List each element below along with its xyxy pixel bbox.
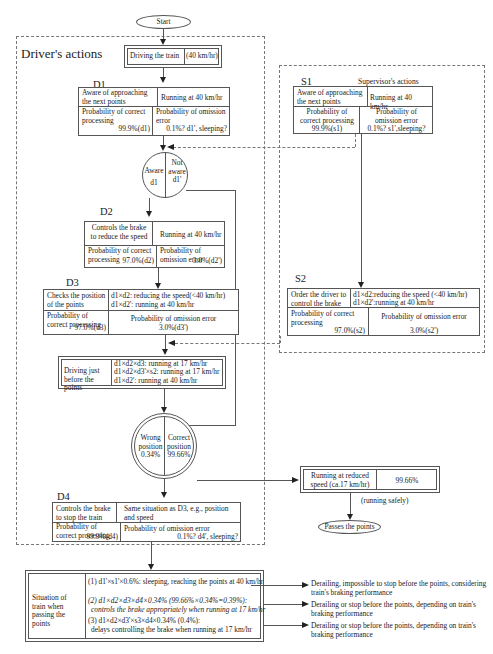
outcome-3: Derailing or stop before the points, dep…: [311, 622, 491, 639]
s2-box: Order the driver to control the brake d1…: [287, 288, 480, 336]
s1-correct-value: 99.9%(s1): [294, 124, 360, 135]
passes-points-label: Passes the points: [324, 522, 374, 531]
driving-before-label: Driving just before the points: [62, 367, 112, 393]
d1-correct-value: 99.9%(d1): [79, 124, 153, 135]
d1-omission-value: 0.1%? d1', sleeping?: [153, 124, 230, 135]
outcome-2: Derailing or stop before the points, dep…: [311, 601, 491, 618]
d4-action: Controls the brake to stop the train: [53, 504, 117, 523]
situation-box: Situation of train when passing the poin…: [25, 570, 264, 642]
situation-item-2-detail: controls the brake appropriately when ru…: [89, 606, 269, 615]
passes-points-node: Passes the points: [318, 520, 381, 534]
situation-item-3-detail: delays controlling the brake when runnin…: [89, 626, 269, 635]
d4-correct-value: 99.9%(d4): [53, 532, 121, 543]
s1-action: Aware of approaching the next points: [294, 88, 368, 107]
driving-train-label: Driving the train: [128, 52, 184, 61]
outcome-1: Derailing, impossible to stop before the…: [311, 580, 491, 597]
reduced-speed-value: 99.66%: [377, 476, 437, 487]
correct-position-label: Correct position 99.66%: [165, 434, 193, 460]
reduced-speed-label: Running at reduced speed (ca.17 km/hr): [304, 471, 376, 490]
start-node: Start: [136, 15, 191, 29]
d3-correct-value: 97.0%(d3): [44, 323, 109, 334]
d4-id: D4: [57, 491, 70, 502]
running-safely-note: (running safely): [361, 497, 408, 506]
situation-label: Situation of train when passing the poin…: [29, 594, 85, 628]
d1-state: Running at 40 km/hr: [158, 93, 230, 104]
driving-train-speed: (40 km/hr): [185, 52, 220, 61]
d2-box: Controls the brake to reduce the speed R…: [84, 221, 225, 268]
d1-action: Aware of approaching the next points: [79, 88, 158, 106]
s1-omission-value: 0.1%? s1',sleeping?: [360, 124, 433, 135]
d3-box: Checks the position of the points d1×d2:…: [43, 289, 239, 335]
d2-state: Running at 40 km/hr: [157, 230, 225, 241]
d1-box: Aware of approaching the next points Run…: [78, 87, 230, 136]
wrong-position-label: Wrong position 0.34%: [137, 434, 164, 460]
s2-omission-value: 3.0%(s2'): [368, 326, 480, 337]
reduced-speed-box: Running at reduced speed (ca.17 km/hr) 9…: [300, 466, 440, 493]
d3-state-line2: d1×d2': running at 40 km/hr: [108, 300, 239, 311]
d3-action: Checks the position of the points: [44, 291, 109, 310]
d4-state: Same situation as D3, e.g., position and…: [121, 504, 241, 523]
s1-box: Aware of approaching the next points Run…: [293, 86, 433, 134]
s2-omission-label: Probability of omission error: [368, 312, 480, 323]
s2-id: S2: [295, 273, 306, 284]
correct-arrow-line: [197, 480, 292, 481]
not-aware-label: Not aware d1': [166, 159, 188, 185]
d2-omission-value: 3.0%(d2'): [157, 256, 225, 267]
d3-omission-value: 3.0%(d3'): [108, 323, 239, 334]
position-decision-circle: Wrong position 0.34% Correct position 99…: [131, 413, 197, 479]
aware-decision-circle: Aware d1 Not aware d1': [142, 152, 188, 198]
d2-action: Controls the brake to reduce the speed: [85, 223, 153, 242]
d2-correct-value: 97.0%(d2): [85, 256, 157, 267]
driver-region-title: Driver's actions: [21, 46, 102, 62]
d3-id: D3: [66, 277, 79, 288]
start-label: Start: [157, 17, 171, 26]
driving-before-line3: d1×d2': running at 40 km/hr: [112, 377, 224, 386]
driving-train-box: Driving the train (40 km/hr): [124, 45, 222, 68]
aware-label: Aware d1: [143, 167, 165, 187]
d4-box: Controls the brake to stop the train Sam…: [52, 502, 241, 542]
driving-before-box: Driving just before the points d1×d2×d3:…: [58, 356, 226, 389]
situation-item-1: (1) d1'×s1'×0.6%: sleeping, reaching the…: [86, 578, 266, 587]
s2-correct-value: 97.0%(s2): [288, 326, 368, 337]
d4-omission-value: 0.1%? d4', sleeping?: [121, 532, 241, 543]
d2-id: D2: [100, 206, 113, 217]
